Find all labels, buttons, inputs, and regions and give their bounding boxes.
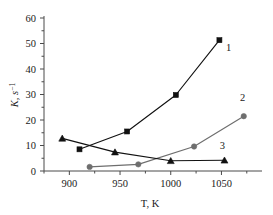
data-point-marker-1 xyxy=(173,93,178,98)
y-tick-label: 50 xyxy=(26,38,37,49)
rate-constant-vs-temperature-chart: 0102030405060 90095010001050 123 K, s−1 … xyxy=(0,0,273,215)
y-tick-label: 0 xyxy=(31,166,36,177)
x-tick-label: 1050 xyxy=(211,178,232,189)
y-axis-title-base: K, s xyxy=(9,91,20,108)
x-tick-label: 900 xyxy=(61,178,77,189)
chart-background xyxy=(0,0,273,215)
data-point-marker-2 xyxy=(241,113,246,118)
y-tick-label: 60 xyxy=(26,13,37,24)
x-axis-title: T, K xyxy=(141,198,160,209)
data-point-marker-2 xyxy=(87,164,92,169)
y-tick-label: 20 xyxy=(26,115,37,126)
data-point-marker-2 xyxy=(191,144,196,149)
series-number-label-2: 2 xyxy=(240,92,245,103)
y-tick-label: 30 xyxy=(26,89,37,100)
data-point-marker-1 xyxy=(77,147,82,152)
x-tick-label: 1000 xyxy=(160,178,181,189)
data-point-marker-1 xyxy=(217,38,222,43)
y-axis-title-exponent: −1 xyxy=(8,83,17,91)
series-number-label-3: 3 xyxy=(220,140,225,151)
y-tick-label: 40 xyxy=(26,64,37,75)
y-tick-label: 10 xyxy=(26,140,37,151)
data-point-marker-1 xyxy=(125,129,130,134)
chart-container: 0102030405060 90095010001050 123 K, s−1 … xyxy=(0,0,273,215)
series-number-label-1: 1 xyxy=(226,42,231,53)
x-tick-label: 950 xyxy=(112,178,128,189)
data-point-marker-2 xyxy=(136,162,141,167)
